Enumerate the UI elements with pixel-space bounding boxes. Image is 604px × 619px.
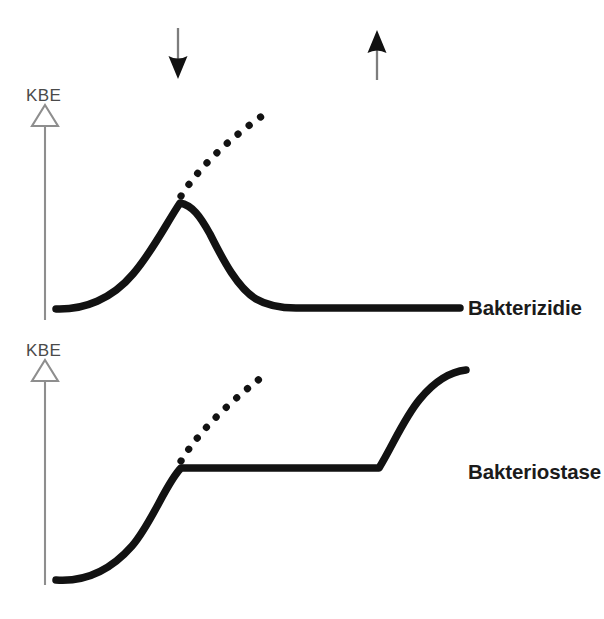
arrow-up-head [368,30,387,53]
arrow-down-marker [169,28,188,79]
figure-container: KBE KBE Bakterizidie Bakteriostase [0,0,604,619]
y-axis-label-bakteriostase: KBE [26,341,61,360]
arrow-down-head [169,56,188,79]
series-label-bakteriostase: Bakteriostase [468,460,601,483]
panel-bakterizidie [32,105,460,320]
series-label-bakterizidie: Bakterizidie [468,296,582,319]
y-axis-arrowhead-icon [32,105,58,126]
panel-bakteriostase [32,360,466,585]
bacteriostatic-curve [56,370,466,580]
bactericidal-curve [56,203,460,309]
control-growth-curve-dotted [181,116,262,196]
y-axis-bakterizidie [32,105,58,320]
y-axis-label-bakterizidie: KBE [26,86,61,105]
y-axis-bakteriostase [32,360,58,585]
y-axis-arrowhead-icon [32,360,58,381]
diagram-canvas: KBE KBE Bakterizidie Bakteriostase [0,0,604,619]
control-growth-curve-dotted [181,377,262,461]
arrow-up-marker [368,30,387,80]
